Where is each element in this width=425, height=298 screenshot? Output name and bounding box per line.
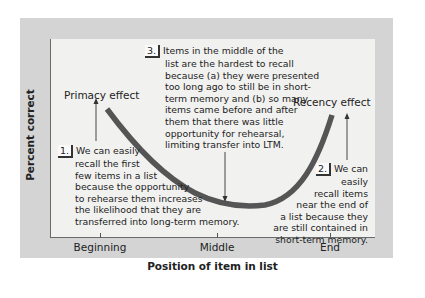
x-tick-beginning <box>100 233 101 238</box>
note-line: them that there was little <box>165 116 335 128</box>
x-tick-middle <box>217 233 218 238</box>
note-line: items came before and after <box>165 104 335 116</box>
note-primacy: 1.We can easily recall the first few ite… <box>58 145 258 228</box>
note-line: recall items <box>248 188 368 200</box>
note-line: transferred into long-term memory. <box>75 216 258 228</box>
note-line: Items in the middle of the <box>163 45 283 56</box>
badge-3: 3. <box>145 45 160 58</box>
note-line: to rehearse them increases <box>75 193 258 205</box>
note-line: too long ago to still be in short- <box>165 81 335 93</box>
note-line: opportunity for rehearsal, <box>165 128 335 140</box>
note-line: We can <box>334 163 368 174</box>
badge-2: 2. <box>316 163 331 176</box>
note-line: We can easily <box>76 145 140 156</box>
y-axis-label: Percent correct <box>24 70 36 200</box>
note-line: list are the hardest to recall <box>165 58 335 70</box>
note-recency: 2.We can easily recall items near the en… <box>248 163 368 246</box>
note-line: term memory and (b) so many <box>165 93 335 105</box>
note-line: the likelihood that they are <box>75 204 258 216</box>
note-line: are still contained in <box>248 222 368 234</box>
primacy-effect-label: Primacy effect <box>64 89 139 101</box>
note-line: because the opportunity <box>75 181 258 193</box>
note-line: few items in a list <box>75 170 258 182</box>
note-line: a list because they <box>248 211 368 223</box>
note-line: easily <box>248 176 368 188</box>
note-line: short-term memory. <box>248 234 368 246</box>
x-tick-label-beginning: Beginning <box>74 241 127 253</box>
note-middle: 3.Items in the middle of the list are th… <box>145 45 335 151</box>
note-line: limiting transfer into LTM. <box>165 139 335 151</box>
x-tick-label-middle: Middle <box>200 241 235 253</box>
badge-1: 1. <box>58 145 73 158</box>
x-axis-label: Position of item in list <box>0 260 425 272</box>
note-line: because (a) they were presented <box>165 70 335 82</box>
note-line: recall the first <box>75 158 258 170</box>
note-line: near the end of <box>248 199 368 211</box>
